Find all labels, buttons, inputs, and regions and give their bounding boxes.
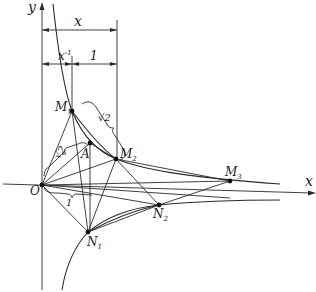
arrow-icon: [72, 62, 79, 66]
arrow-icon: [110, 62, 117, 66]
dimension-lines: [42, 20, 117, 160]
hyperbola-diagram: y x O x x-1 1 √2 √2 1 M1 M2 M3 A N1 N2: [0, 0, 316, 292]
brace-label-one: 1: [66, 197, 72, 208]
point-O: [40, 183, 45, 188]
origin-label: O: [30, 184, 40, 198]
arrow-icon: [110, 28, 117, 32]
y-axis-label: y: [27, 0, 37, 15]
point-M2: [114, 157, 119, 162]
label-M3: M3: [224, 165, 242, 181]
points: [40, 109, 233, 235]
brace-label-sqrt2-m1m2: √2: [98, 112, 111, 123]
point-N1: [86, 230, 91, 235]
construction-lines: [42, 111, 230, 232]
arrow-icon: [65, 62, 72, 66]
arrow-icon: [42, 28, 49, 32]
label-A: A: [80, 147, 90, 161]
dimension-label-x-inverse: x-1: [58, 49, 72, 63]
label-M2: M2: [119, 147, 137, 163]
point-A: [88, 141, 93, 146]
x-axis-arrow-icon: [308, 191, 316, 196]
arrow-icon: [42, 62, 49, 66]
point-M3: [228, 179, 233, 184]
y-axis-arrow-icon: [40, 2, 45, 10]
brace-label-sqrt2-oa: √2: [52, 144, 68, 161]
x-axis-label: x: [305, 173, 313, 189]
axes: [3, 2, 316, 290]
dimension-label-x: x: [74, 13, 82, 29]
label-N1: N1: [86, 235, 102, 251]
label-N2: N2: [152, 207, 169, 223]
dimension-label-one: 1: [90, 49, 98, 63]
